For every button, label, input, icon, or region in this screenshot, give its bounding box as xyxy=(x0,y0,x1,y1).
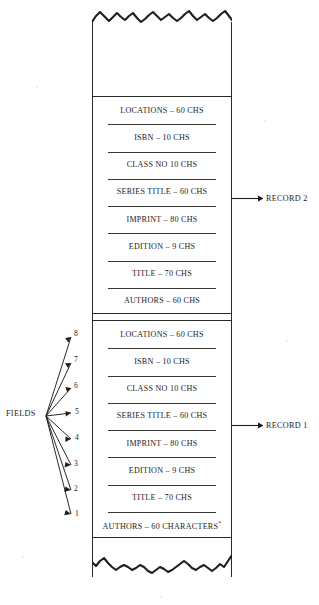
fan-number: 5 xyxy=(75,408,79,416)
field-row: ISBN – 10 CHS xyxy=(92,348,232,375)
field-label-text: AUTHORS – 60 CHARACTERS xyxy=(103,522,219,531)
fan-number: 8 xyxy=(74,330,78,338)
scan-speck xyxy=(264,120,266,122)
field-row: IMPRINT – 80 CHS xyxy=(92,430,232,457)
callout-label: RECORD 2 xyxy=(266,194,308,203)
field-label: ISBN – 10 CHS xyxy=(134,134,190,142)
field-label: EDITION – 9 CHS xyxy=(129,467,195,475)
field-row: TITLE – 70 CHS xyxy=(92,485,232,512)
field-label: EDITION – 9 CHS xyxy=(129,243,195,251)
record-block-1: LOCATIONS – 60 CHS ISBN – 10 CHS CLASS N… xyxy=(92,320,232,538)
field-row: EDITION – 9 CHS xyxy=(92,457,232,484)
field-row: LOCATIONS – 60 CHS xyxy=(92,321,232,348)
field-label-authors: AUTHORS – 60 CHARACTERS* xyxy=(103,520,222,531)
record-block-2: LOCATIONS – 60 CHS ISBN – 10 CHS CLASS N… xyxy=(92,96,232,314)
fan-number: 4 xyxy=(75,434,79,442)
field-label: LOCATIONS – 60 CHS xyxy=(120,107,203,115)
fan-number: 3 xyxy=(74,460,78,468)
field-row: CLASS NO 10 CHS xyxy=(92,152,232,179)
scan-speck xyxy=(36,86,38,88)
field-label: CLASS NO 10 CHS xyxy=(127,385,198,393)
field-label: LOCATIONS – 60 CHS xyxy=(120,331,203,339)
fan-number: 6 xyxy=(74,382,78,390)
scan-speck xyxy=(286,340,288,342)
field-label: IMPRINT – 80 CHS xyxy=(126,440,197,448)
field-row: CLASS NO 10 CHS xyxy=(92,376,232,403)
field-row: AUTHORS – 60 CHS xyxy=(92,288,232,315)
field-label: TITLE – 70 CHS xyxy=(132,494,192,502)
field-label: ISBN – 10 CHS xyxy=(134,358,190,366)
scan-speck xyxy=(160,596,162,598)
callout-record-2: RECORD 2 xyxy=(232,191,308,205)
file-structure-figure: LOCATIONS – 60 CHS ISBN – 10 CHS CLASS N… xyxy=(0,0,319,605)
field-label: CLASS NO 10 CHS xyxy=(127,161,198,169)
leader-arrow-icon xyxy=(232,420,264,431)
scan-speck xyxy=(22,556,24,558)
callout-label: RECORD 1 xyxy=(266,421,308,430)
field-label: SERIES TITLE – 60 CHS xyxy=(117,188,208,196)
field-row: IMPRINT – 80 CHS xyxy=(92,206,232,233)
field-label: IMPRINT – 80 CHS xyxy=(126,216,197,224)
leader-arrow-icon xyxy=(232,193,264,204)
fan-number: 2 xyxy=(74,485,78,493)
field-row: AUTHORS – 60 CHARACTERS* xyxy=(92,512,232,539)
field-row: SERIES TITLE – 60 CHS xyxy=(92,179,232,206)
callout-record-1: RECORD 1 xyxy=(232,418,308,432)
field-row: LOCATIONS – 60 CHS xyxy=(92,97,232,124)
field-label: TITLE – 70 CHS xyxy=(132,270,192,278)
field-label: AUTHORS – 60 CHS xyxy=(124,297,200,305)
field-row: ISBN – 10 CHS xyxy=(92,124,232,151)
fields-callout-label: FIELDS xyxy=(6,409,36,418)
fan-arrow-icons xyxy=(44,324,94,524)
fan-number: 7 xyxy=(74,356,78,364)
field-row: SERIES TITLE – 60 CHS xyxy=(92,403,232,430)
fan-number: 1 xyxy=(75,510,79,518)
torn-edge-bottom-icon xyxy=(92,552,232,578)
footnote-marker: * xyxy=(218,520,221,526)
field-row: EDITION – 9 CHS xyxy=(92,233,232,260)
field-label: SERIES TITLE – 60 CHS xyxy=(117,412,208,420)
fields-fan-arrows: 8 7 6 5 4 3 2 1 xyxy=(44,324,94,524)
field-row: TITLE – 70 CHS xyxy=(92,261,232,288)
